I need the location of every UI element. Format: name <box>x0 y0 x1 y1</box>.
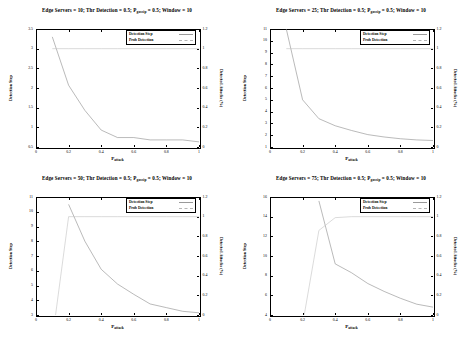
plot-curves <box>234 0 468 168</box>
legend-item: Prob Detection <box>129 38 193 44</box>
legend: Detection StepProb Detection <box>360 30 430 45</box>
legend-label: Prob Detection <box>363 206 387 212</box>
panel-edge-servers-10: Edge Servers = 10; Thr Detection = 0.5; … <box>0 0 234 168</box>
legend-line-swatch <box>413 202 427 203</box>
figure-grid: Edge Servers = 10; Thr Detection = 0.5; … <box>0 0 468 337</box>
panel-edge-servers-75: Edge Servers = 75; Thr Detection = 0.5; … <box>234 168 468 336</box>
legend: Detection StepProb Detection <box>360 198 430 213</box>
series-line-prob-detection <box>56 217 199 315</box>
legend-line-swatch <box>413 34 427 35</box>
plot-curves <box>0 168 234 336</box>
legend-line-swatch <box>413 208 427 209</box>
legend: Detection StepProb Detection <box>126 198 196 213</box>
plot-curves <box>0 0 234 168</box>
legend-line-swatch <box>179 40 193 41</box>
series-line-prob-detection <box>304 217 433 315</box>
panel-edge-servers-25: Edge Servers = 25; Thr Detection = 0.5; … <box>234 0 468 168</box>
legend: Detection StepProb Detection <box>126 30 196 45</box>
legend-label: Prob Detection <box>363 38 387 44</box>
legend-label: Prob Detection <box>129 38 153 44</box>
legend-label: Prob Detection <box>129 206 153 212</box>
panel-edge-servers-50: Edge Servers = 50; Thr Detection = 0.5; … <box>0 168 234 336</box>
series-line-detection-step <box>52 37 199 142</box>
legend-item: Prob Detection <box>363 38 427 44</box>
legend-line-swatch <box>179 202 193 203</box>
legend-item: Prob Detection <box>363 206 427 212</box>
series-line-detection-step <box>286 29 433 141</box>
plot-curves <box>234 168 468 336</box>
series-line-detection-step <box>69 204 199 312</box>
legend-item: Prob Detection <box>129 206 193 212</box>
legend-line-swatch <box>413 40 427 41</box>
legend-line-swatch <box>179 34 193 35</box>
legend-line-swatch <box>179 208 193 209</box>
